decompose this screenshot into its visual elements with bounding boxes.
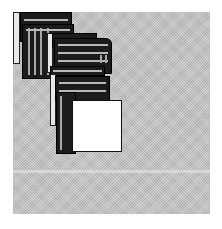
title-bar-stripe [58,52,108,54]
window-edge-stripe [100,55,102,63]
title-bar-stripe [58,44,108,46]
front-window[interactable] [72,100,122,152]
window-edge-left [13,12,20,64]
window-edge-stripe [60,96,62,150]
title-bar-stripe [24,19,68,21]
desktop-band [13,170,210,173]
window-edge-stripe [105,55,107,63]
window-edge-stripe [34,28,36,75]
window-edge-stripe [28,28,30,75]
title-bar-stripe [59,82,106,84]
window-edge-stripe [40,28,42,75]
title-bar-stripe [53,70,102,72]
title-bar-stripe [26,29,70,31]
window-5[interactable] [50,66,105,76]
